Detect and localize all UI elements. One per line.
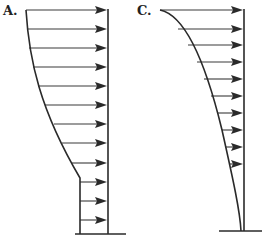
panel-a: A. xyxy=(2,3,126,234)
panel-a-arrows xyxy=(26,6,107,224)
velocity-profile-figure: A. C. xyxy=(0,0,268,248)
panel-c-profile-curve xyxy=(160,10,241,231)
figure-svg: A. C. xyxy=(0,0,268,248)
panel-a-profile-curve xyxy=(26,10,80,234)
panel-a-label: A. xyxy=(2,3,18,18)
panel-c: C. xyxy=(137,3,262,231)
panel-c-label: C. xyxy=(137,3,152,18)
panel-c-arrows xyxy=(160,6,243,168)
